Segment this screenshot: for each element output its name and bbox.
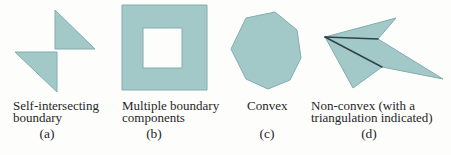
non-convex-polygon-outline (325, 18, 443, 88)
caption-c-line1: Convex (247, 100, 287, 112)
square-with-hole-shape (122, 5, 207, 90)
self-intersecting-shape (15, 10, 95, 92)
convex-polygon-shape (231, 12, 301, 89)
panel-marker-b: (b) (146, 127, 162, 140)
caption-d-line2: triangulation indicated) (311, 112, 433, 124)
panel-marker-c: (c) (260, 127, 275, 140)
caption-self-intersecting: Self-intersecting boundary (13, 100, 99, 123)
polygon-types-figure: Self-intersecting boundary (a) Multiple … (0, 0, 451, 155)
caption-non-convex: Non-convex (with a triangulation indicat… (311, 100, 433, 123)
pinwheel-upper-triangle (55, 10, 95, 49)
pinwheel-lower-triangle (15, 52, 57, 92)
figure-canvas (0, 0, 451, 155)
caption-multiple-boundary: Multiple boundary components (122, 100, 219, 123)
panel-marker-d: (d) (361, 127, 377, 140)
caption-convex: Convex (247, 100, 287, 112)
panel-marker-a: (a) (40, 127, 55, 140)
non-convex-polygon-shape (325, 18, 443, 88)
caption-a-line2: boundary (13, 112, 99, 124)
caption-b-line2: components (122, 112, 219, 124)
